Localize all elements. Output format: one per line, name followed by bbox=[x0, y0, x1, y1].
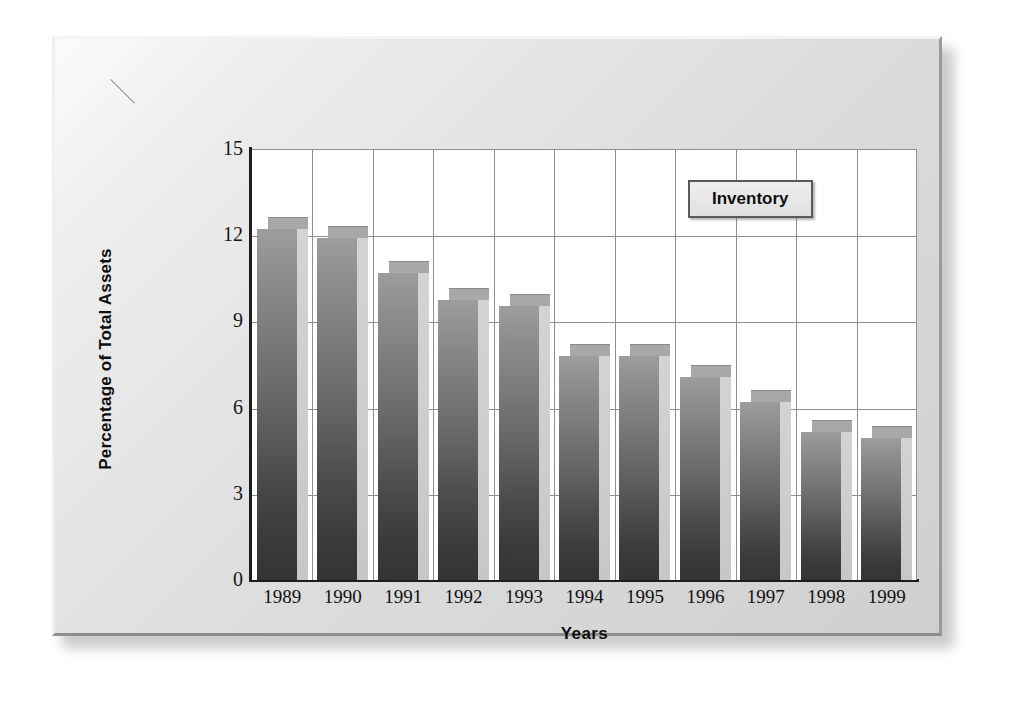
frame-bevel-corner bbox=[111, 79, 137, 105]
bar-1991[interactable] bbox=[378, 262, 429, 580]
bar-top-cap bbox=[328, 227, 368, 238]
y-axis-tick-9: 9 bbox=[199, 310, 243, 330]
bar-front-face bbox=[499, 306, 539, 580]
bar-top-cap bbox=[570, 345, 610, 356]
x-axis-tick-1997: 1997 bbox=[736, 586, 796, 608]
bar-top-edge bbox=[812, 420, 852, 421]
bar-1997[interactable] bbox=[740, 391, 791, 580]
legend-label: Inventory bbox=[712, 189, 789, 208]
bar-1994[interactable] bbox=[559, 345, 610, 580]
gridline-vertical bbox=[554, 150, 555, 580]
gridline-vertical bbox=[675, 150, 676, 580]
bar-1993[interactable] bbox=[499, 295, 550, 580]
bar-1995[interactable] bbox=[619, 345, 670, 580]
bar-side-face bbox=[659, 345, 670, 580]
bar-side-face bbox=[901, 427, 912, 580]
bar-1990[interactable] bbox=[317, 227, 368, 580]
bar-top-edge bbox=[570, 344, 610, 345]
bar-side-face bbox=[841, 421, 852, 580]
bar-1998[interactable] bbox=[801, 421, 852, 580]
y-axis-tick-15: 15 bbox=[199, 138, 243, 158]
bar-front-face bbox=[740, 402, 780, 580]
bar-top-cap bbox=[751, 391, 791, 402]
bar-front-face bbox=[378, 273, 418, 580]
bar-top-cap bbox=[510, 295, 550, 306]
x-axis-tick-1994: 1994 bbox=[555, 586, 615, 608]
y-axis-tick-3: 3 bbox=[199, 483, 243, 503]
bar-top-edge bbox=[389, 261, 429, 262]
y-axis-tick-6: 6 bbox=[199, 397, 243, 417]
bar-side-face bbox=[599, 345, 610, 580]
x-axis-tick-1995: 1995 bbox=[615, 586, 675, 608]
y-axis-tick-labels: 03691215 bbox=[195, 39, 243, 702]
bar-top-edge bbox=[630, 344, 670, 345]
bar-top-edge bbox=[510, 294, 550, 295]
bar-side-face bbox=[780, 391, 791, 580]
x-axis-tick-1993: 1993 bbox=[494, 586, 554, 608]
x-axis-tick-1998: 1998 bbox=[796, 586, 856, 608]
legend-inventory[interactable]: Inventory bbox=[688, 180, 813, 218]
bar-top-edge bbox=[691, 365, 731, 366]
gridline-vertical bbox=[857, 150, 858, 580]
bar-top-edge bbox=[872, 426, 912, 427]
x-axis-tick-1999: 1999 bbox=[857, 586, 917, 608]
gridline-vertical bbox=[373, 150, 374, 580]
gridline-vertical bbox=[312, 150, 313, 580]
bar-top-cap bbox=[389, 262, 429, 273]
bar-1999[interactable] bbox=[861, 427, 912, 580]
bar-top-cap bbox=[268, 218, 308, 229]
bar-top-edge bbox=[268, 217, 308, 218]
y-axis-title: Percentage of Total Assets bbox=[96, 229, 116, 489]
bar-front-face bbox=[438, 300, 478, 580]
plot-area bbox=[252, 149, 917, 580]
bar-side-face bbox=[539, 295, 550, 580]
bar-side-face bbox=[478, 289, 489, 580]
y-axis-tick-0: 0 bbox=[199, 569, 243, 589]
bar-top-cap bbox=[630, 345, 670, 356]
x-axis-tick-1990: 1990 bbox=[313, 586, 373, 608]
bar-1992[interactable] bbox=[438, 289, 489, 580]
gridline-vertical bbox=[494, 150, 495, 580]
bar-top-cap bbox=[812, 421, 852, 432]
bar-top-edge bbox=[328, 226, 368, 227]
y-axis-tick-12: 12 bbox=[199, 224, 243, 244]
bar-front-face bbox=[861, 438, 901, 580]
chart-frame: 03691215 Percentage of Total Assets 1989… bbox=[52, 36, 942, 636]
bar-1989[interactable] bbox=[257, 218, 308, 580]
gridline-vertical bbox=[615, 150, 616, 580]
x-axis-tick-1991: 1991 bbox=[373, 586, 433, 608]
bar-top-cap bbox=[872, 427, 912, 438]
bar-front-face bbox=[619, 356, 659, 580]
bar-top-edge bbox=[449, 288, 489, 289]
bar-front-face bbox=[680, 377, 720, 580]
bar-top-edge bbox=[751, 390, 791, 391]
bar-side-face bbox=[418, 262, 429, 580]
bar-side-face bbox=[357, 227, 368, 580]
bar-top-cap bbox=[691, 366, 731, 377]
x-axis-title: Years bbox=[252, 624, 917, 644]
bar-front-face bbox=[317, 238, 357, 580]
x-axis-tick-1996: 1996 bbox=[675, 586, 735, 608]
bar-1996[interactable] bbox=[680, 366, 731, 580]
bar-front-face bbox=[257, 229, 297, 580]
bar-side-face bbox=[720, 366, 731, 580]
bar-side-face bbox=[297, 218, 308, 580]
x-axis-tick-1992: 1992 bbox=[434, 586, 494, 608]
bar-front-face bbox=[801, 432, 841, 580]
x-axis-tick-1989: 1989 bbox=[252, 586, 312, 608]
bar-top-cap bbox=[449, 289, 489, 300]
bar-front-face bbox=[559, 356, 599, 580]
gridline-vertical bbox=[433, 150, 434, 580]
